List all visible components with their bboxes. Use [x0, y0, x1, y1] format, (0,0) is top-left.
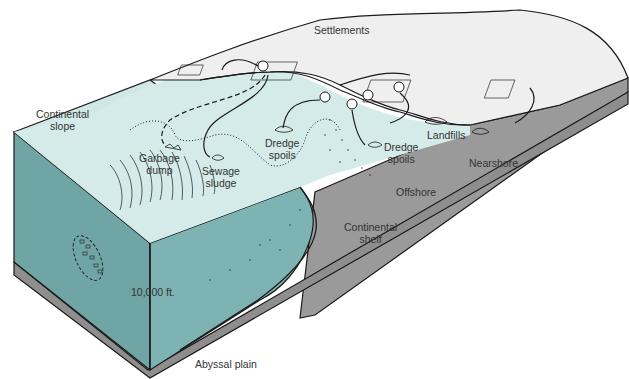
label-line: Sewage	[202, 165, 240, 177]
label-abyssal-plain: Abyssal plain	[195, 358, 257, 370]
label-continental-slope: Continental slope	[36, 108, 89, 132]
label-landfills: Landfills	[427, 129, 466, 141]
label-line: Continental	[344, 221, 397, 233]
label-line: Continental	[36, 108, 89, 120]
label-depth: 10,000 ft.	[131, 286, 175, 298]
label-line: Dredge	[384, 141, 418, 153]
label-continental-shelf: Continental shelf	[344, 221, 397, 245]
label-line: dump	[139, 164, 180, 176]
label-line: Dredge	[265, 137, 299, 149]
label-line: Garbage	[139, 152, 180, 164]
label-garbage-dump: Garbage dump	[139, 152, 180, 176]
label-dredge-spoils-1: Dredge spoils	[265, 137, 299, 161]
label-settlements: Settlements	[314, 24, 369, 36]
ocean-dumping-diagram	[0, 0, 629, 379]
label-nearshore: Nearshore	[469, 157, 518, 169]
label-line: spoils	[265, 149, 299, 161]
label-line: spoils	[384, 153, 418, 165]
label-dredge-spoils-2: Dredge spoils	[384, 141, 418, 165]
label-sewage-sludge: Sewage sludge	[202, 165, 240, 189]
label-offshore: Offshore	[396, 186, 436, 198]
label-line: slope	[36, 120, 89, 132]
label-line: sludge	[202, 177, 240, 189]
label-line: shelf	[344, 233, 397, 245]
